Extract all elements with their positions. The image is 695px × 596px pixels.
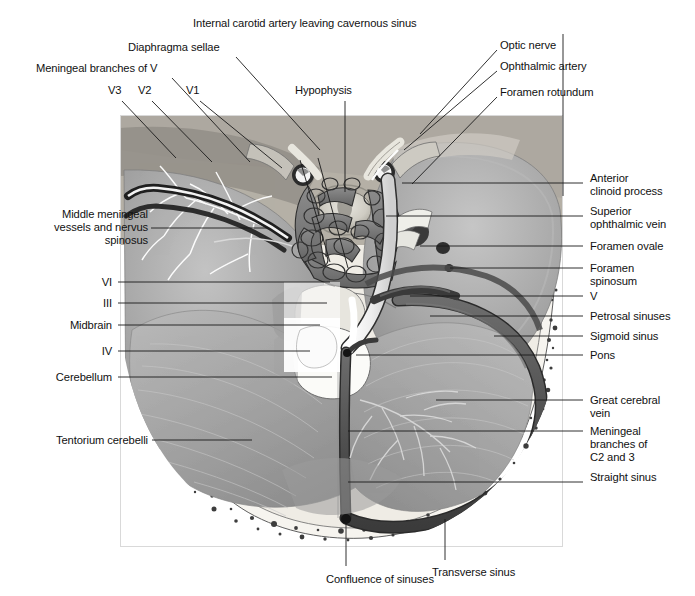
label-midbrain: Midbrain — [0, 319, 112, 332]
basilar-artery — [350, 300, 354, 350]
label-hypophysis: Hypophysis — [295, 84, 352, 97]
label-straight-sinus: Straight sinus — [590, 471, 656, 484]
label-petrosal-sinuses: Petrosal sinuses — [590, 310, 670, 323]
label-foramen-ovale: Foramen ovale — [590, 240, 663, 253]
foramen-ovale — [436, 242, 450, 254]
label-v: V — [590, 290, 597, 303]
label-internal-carotid-artery: Internal carotid artery leaving cavernou… — [193, 17, 417, 30]
label-iv: IV — [0, 345, 112, 358]
label-transverse-sinus: Transverse sinus — [432, 566, 515, 579]
inset-panel-upper — [284, 282, 340, 320]
anatomical-figure: Internal carotid artery leaving cavernou… — [0, 0, 695, 596]
label-anterior-clinoid-process: Anterior clinoid process — [590, 172, 663, 198]
label-tentorium-cerebelli: Tentorium cerebelli — [0, 434, 148, 447]
label-pons: Pons — [590, 349, 615, 362]
label-cerebellum: Cerebellum — [0, 371, 112, 384]
label-superior-ophthalmic-vein: Superior ophthalmic vein — [590, 205, 666, 231]
label-sigmoid-sinus: Sigmoid sinus — [590, 330, 658, 343]
label-ophthalmic-artery: Ophthalmic artery — [500, 60, 587, 73]
label-v3: V3 — [108, 84, 121, 97]
label-meningeal-branches-c2-c3: Meningeal branches of C2 and 3 — [590, 425, 647, 465]
label-optic-nerve: Optic nerve — [500, 39, 556, 52]
label-vi: VI — [0, 276, 112, 289]
label-v1: V1 — [186, 84, 199, 97]
label-foramen-rotundum: Foramen rotundum — [500, 86, 594, 99]
label-diaphragma-sellae: Diaphragma sellae — [128, 41, 220, 54]
label-confluence-of-sinuses: Confluence of sinuses — [326, 573, 434, 586]
label-v2: V2 — [138, 84, 151, 97]
intracranial-contents — [120, 115, 563, 527]
label-middle-meningeal-vessels: Middle meningeal vessels and nervus spin… — [0, 208, 148, 248]
label-meningeal-branches-of-v: Meningeal branches of V — [36, 62, 157, 75]
label-foramen-spinosum: Foramen spinosum — [590, 262, 637, 288]
label-great-cerebral-vein: Great cerebral vein — [590, 394, 660, 420]
label-iii: III — [0, 297, 112, 310]
